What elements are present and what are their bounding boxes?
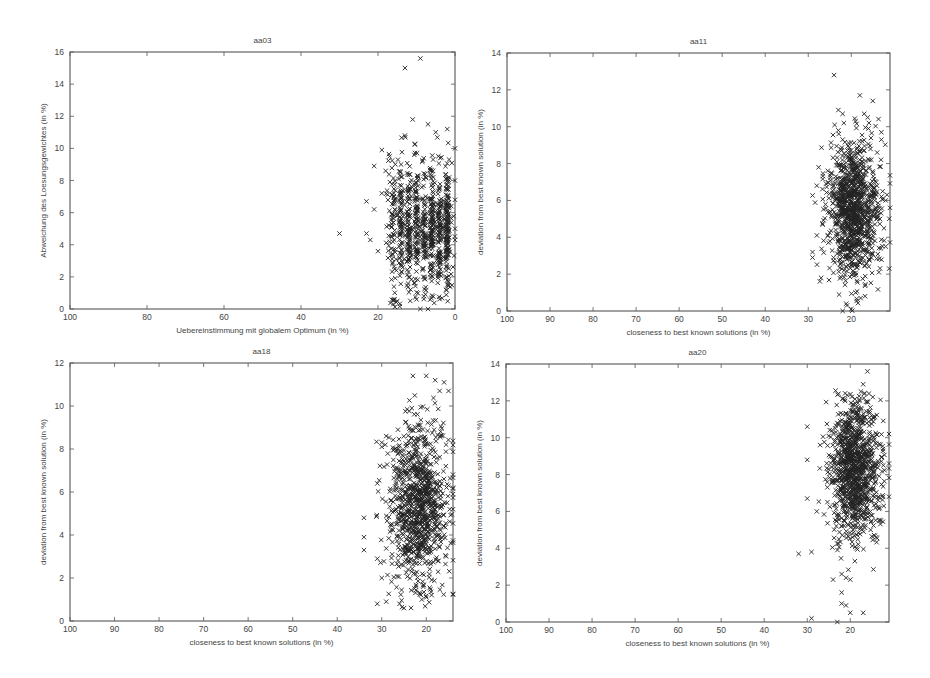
y-tick-label: 6 [59, 487, 64, 497]
x-tick-label: 40 [759, 625, 769, 635]
x-tick-label: 0 [453, 312, 458, 322]
x-tick-label: 60 [219, 312, 229, 322]
y-tick-label: 0 [59, 616, 64, 626]
y-tick-label: 2 [495, 580, 500, 590]
y-tick-label: 0 [495, 617, 500, 627]
y-tick-label: 2 [496, 269, 501, 279]
chart-aa11: aa11100908070605040302002468101214closen… [465, 0, 930, 339]
y-tick-label: 4 [495, 543, 500, 553]
y-tick-label: 8 [59, 176, 64, 186]
x-tick-label: 90 [545, 314, 555, 324]
x-tick-label: 30 [804, 314, 814, 324]
x-tick-label: 100 [63, 312, 77, 322]
y-tick-label: 10 [55, 143, 65, 153]
x-tick-label: 60 [674, 314, 684, 324]
x-tick-label: 40 [760, 314, 770, 324]
y-tick-label: 14 [55, 79, 65, 89]
y-axis-label: deviation from best known solution (in %… [476, 109, 485, 255]
x-tick-label: 30 [377, 624, 387, 634]
x-tick-label: 40 [332, 624, 342, 634]
x-tick-label: 90 [110, 624, 120, 634]
x-tick-label: 70 [630, 625, 640, 635]
y-tick-label: 2 [59, 272, 64, 282]
y-tick-label: 10 [492, 122, 502, 132]
x-tick-label: 60 [673, 625, 683, 635]
y-axis-label: deviation from best known solution (in %… [39, 419, 48, 565]
y-tick-label: 12 [491, 396, 501, 406]
scatter-plot-aa11: aa11100908070605040302002468101214closen… [465, 0, 930, 339]
chart-title: aa20 [689, 348, 707, 357]
y-tick-label: 4 [496, 232, 501, 242]
y-tick-label: 6 [495, 506, 500, 516]
chart-aa03: aa031008060402000246810121416Uebereinsti… [0, 0, 465, 339]
y-tick-label: 8 [496, 159, 501, 169]
scatter-plot-aa03: aa031008060402000246810121416Uebereinsti… [0, 0, 465, 339]
x-tick-label: 80 [154, 624, 164, 634]
x-tick-label: 70 [199, 624, 209, 634]
scatter-points [362, 374, 455, 611]
y-tick-label: 6 [496, 195, 501, 205]
y-tick-label: 16 [55, 47, 65, 57]
y-axis-label: Abweichung des Loesungsgewichtes (in %) [39, 103, 48, 258]
x-tick-label: 80 [588, 314, 598, 324]
scatter-points [796, 369, 891, 624]
y-tick-label: 6 [59, 208, 64, 218]
y-tick-label: 4 [59, 240, 64, 250]
x-tick-label: 20 [373, 312, 383, 322]
x-tick-label: 70 [631, 314, 641, 324]
y-tick-label: 4 [59, 530, 64, 540]
y-tick-label: 14 [492, 48, 502, 58]
y-tick-label: 12 [55, 111, 65, 121]
x-tick-label: 50 [288, 624, 298, 634]
x-tick-label: 90 [544, 625, 554, 635]
x-tick-label: 100 [63, 624, 77, 634]
x-axis-label: closeness to best known solutions (in %) [625, 639, 769, 648]
x-tick-label: 100 [499, 625, 513, 635]
x-axis-label: closeness to best known solutions (in %) [626, 328, 770, 337]
y-axis-label: deviation from best known solution (in %… [475, 420, 484, 566]
y-tick-label: 12 [492, 85, 502, 95]
y-tick-label: 8 [59, 444, 64, 454]
x-tick-label: 20 [422, 624, 432, 634]
chart-title: aa18 [253, 347, 271, 356]
x-tick-label: 50 [717, 314, 727, 324]
y-tick-label: 14 [491, 359, 501, 369]
x-tick-label: 20 [846, 625, 856, 635]
x-tick-label: 80 [587, 625, 597, 635]
y-tick-label: 2 [59, 573, 64, 583]
chart-aa18: aa181009080706050403020024681012closenes… [0, 339, 465, 678]
x-tick-label: 50 [716, 625, 726, 635]
x-axis-label: closeness to best known solutions (in %) [189, 638, 333, 647]
scatter-points [337, 56, 457, 311]
x-tick-label: 80 [142, 312, 152, 322]
y-tick-label: 10 [55, 401, 65, 411]
y-tick-label: 12 [55, 358, 65, 368]
x-tick-label: 60 [243, 624, 253, 634]
scatter-plot-aa18: aa181009080706050403020024681012closenes… [0, 339, 465, 678]
y-tick-label: 0 [496, 306, 501, 316]
scatter-points [810, 73, 892, 313]
y-tick-label: 8 [495, 470, 500, 480]
x-tick-label: 20 [847, 314, 857, 324]
chart-title: aa11 [690, 37, 708, 46]
x-tick-label: 30 [803, 625, 813, 635]
x-axis-label: Uebereinstimmung mit globalem Optimum (i… [176, 326, 349, 335]
x-tick-label: 100 [500, 314, 514, 324]
plot-frame [506, 364, 889, 622]
chart-aa20: aa20100908070605040302002468101214closen… [465, 339, 930, 678]
x-tick-label: 40 [296, 312, 306, 322]
y-tick-label: 0 [59, 304, 64, 314]
chart-title: aa03 [254, 36, 272, 45]
scatter-plot-aa20: aa20100908070605040302002468101214closen… [465, 339, 930, 678]
y-tick-label: 10 [491, 433, 501, 443]
